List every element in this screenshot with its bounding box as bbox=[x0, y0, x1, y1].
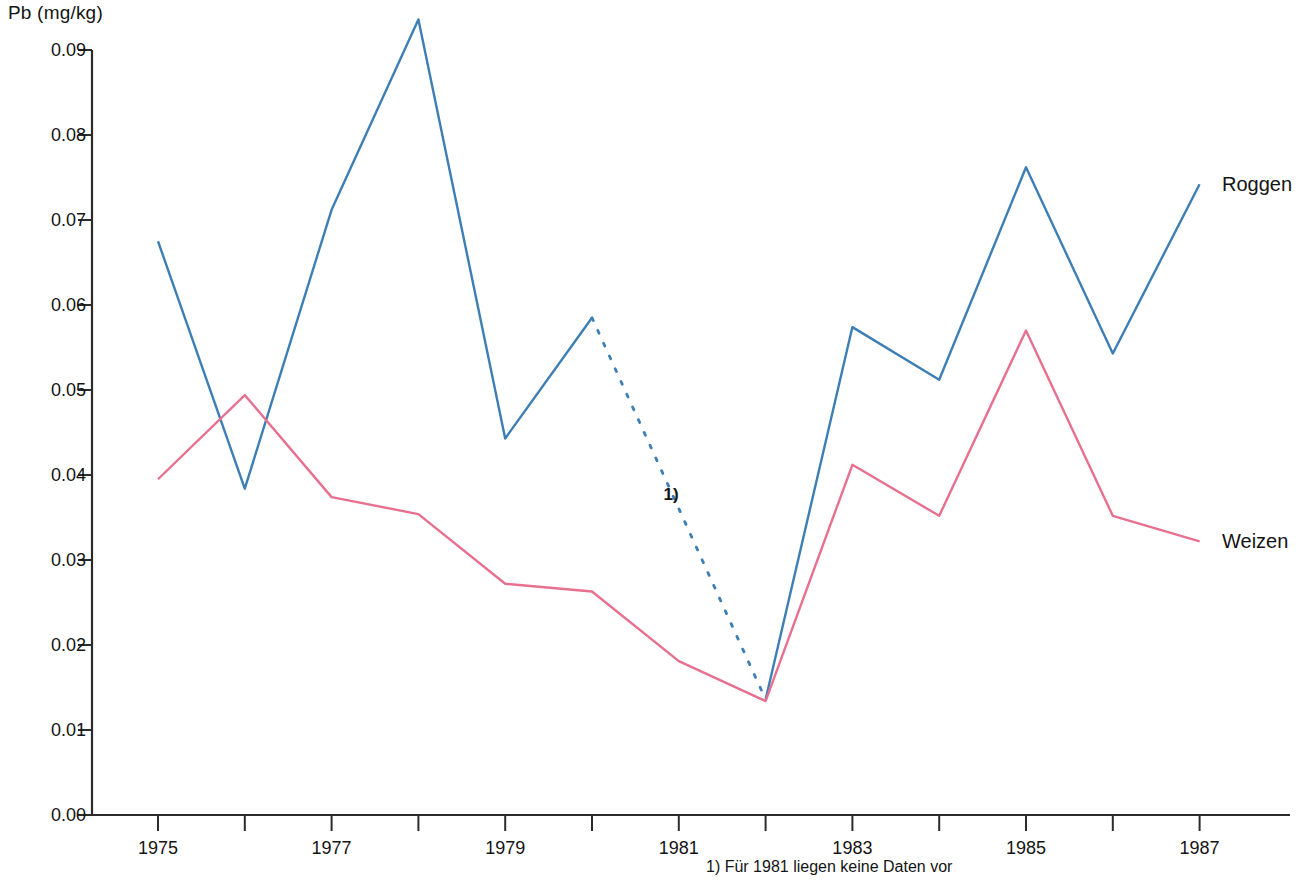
y-tick-label: 0.00 bbox=[14, 805, 86, 826]
series-line-roggen bbox=[158, 19, 592, 488]
x-tick-label: 1975 bbox=[138, 838, 178, 859]
y-axis-labels: 0.000.010.020.030.040.050.060.070.080.09 bbox=[0, 0, 86, 885]
chart-container: Pb (mg/kg) 0.000.010.020.030.040.050.060… bbox=[0, 0, 1307, 885]
series-label-roggen: Roggen bbox=[1222, 173, 1292, 196]
x-tick-label: 1983 bbox=[832, 838, 872, 859]
x-tick-label: 1981 bbox=[659, 838, 699, 859]
footnote-text: 1) Für 1981 liegen keine Daten vor bbox=[706, 858, 952, 876]
y-tick-label: 0.09 bbox=[14, 40, 86, 61]
y-tick-label: 0.03 bbox=[14, 550, 86, 571]
series-line-roggen-tail bbox=[766, 167, 1200, 699]
y-tick-label: 0.04 bbox=[14, 465, 86, 486]
x-tick-label: 1985 bbox=[1006, 838, 1046, 859]
y-tick-label: 0.02 bbox=[14, 635, 86, 656]
series-label-weizen: Weizen bbox=[1222, 530, 1288, 553]
x-axis-ticks bbox=[158, 815, 1200, 831]
x-tick-label: 1987 bbox=[1180, 838, 1220, 859]
series-line-weizen bbox=[158, 331, 1200, 702]
x-tick-label: 1979 bbox=[485, 838, 525, 859]
series-lines bbox=[158, 19, 1200, 701]
y-tick-label: 0.01 bbox=[14, 720, 86, 741]
y-tick-label: 0.07 bbox=[14, 210, 86, 231]
footnote-marker: 1) bbox=[663, 485, 678, 505]
x-tick-label: 1977 bbox=[312, 838, 352, 859]
y-tick-label: 0.06 bbox=[14, 295, 86, 316]
axis-lines bbox=[92, 50, 1290, 815]
series-line-roggen-dashed bbox=[592, 318, 766, 700]
plot-area bbox=[0, 0, 1307, 885]
y-tick-label: 0.05 bbox=[14, 380, 86, 401]
y-tick-label: 0.08 bbox=[14, 125, 86, 146]
